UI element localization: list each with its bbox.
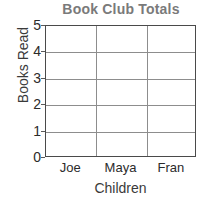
horizontal-gridline xyxy=(46,79,195,80)
x-axis-tick-labels: JoeMayaFran xyxy=(45,160,196,176)
chart-title: Book Club Totals xyxy=(45,1,197,17)
y-axis-tick-mark xyxy=(41,157,45,158)
horizontal-gridline xyxy=(46,132,195,133)
y-axis-tick-labels: 012345 xyxy=(27,25,41,157)
y-axis-tick-label: 3 xyxy=(27,71,41,85)
y-axis-tick-label: 0 xyxy=(27,150,41,164)
y-axis-tick-mark xyxy=(41,104,45,105)
y-axis-tick-mark xyxy=(41,78,45,79)
horizontal-gridline xyxy=(46,52,195,53)
x-axis-tick-label: Fran xyxy=(157,160,184,175)
bar-chart-figure: Book Club Totals Books Read 012345 JoeMa… xyxy=(0,0,207,200)
vertical-gridline xyxy=(147,26,148,156)
y-axis-tick-mark xyxy=(41,51,45,52)
y-axis-tick-mark xyxy=(41,25,45,26)
y-axis-tick-mark xyxy=(41,131,45,132)
x-axis-title: Children xyxy=(45,180,196,196)
x-axis-tick-label: Maya xyxy=(105,160,137,175)
plot-area xyxy=(45,25,196,157)
x-axis-tick-label: Joe xyxy=(60,160,81,175)
y-axis-tick-label: 1 xyxy=(27,124,41,138)
y-axis-tick-label: 5 xyxy=(27,18,41,32)
y-axis-tick-label: 2 xyxy=(27,97,41,111)
horizontal-gridline xyxy=(46,105,195,106)
y-axis-tick-label: 4 xyxy=(27,44,41,58)
vertical-gridline xyxy=(96,26,97,156)
